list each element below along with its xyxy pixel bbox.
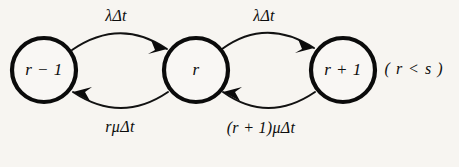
transition-birth-right: λΔt — [222, 7, 314, 53]
state-label-r-plus-1: r + 1 — [324, 60, 362, 79]
state-label-r: r — [192, 60, 199, 79]
edge-label-birth-right: λΔt — [252, 7, 275, 24]
diagram-canvas: λΔt rμΔt λΔt (r + 1)μΔt r − 1 r — [0, 0, 459, 167]
arc-death-right — [223, 92, 315, 108]
range-condition-annotation: ( r < s ) — [385, 60, 444, 78]
state-node-r-plus-1: r + 1 — [311, 38, 375, 102]
state-node-r: r — [164, 38, 228, 102]
state-node-r-minus-1: r − 1 — [12, 38, 76, 102]
edge-label-death-left: rμΔt — [105, 118, 135, 136]
transition-death-right: (r + 1)μΔt — [223, 87, 315, 137]
state-transition-diagram: λΔt rμΔt λΔt (r + 1)μΔt r − 1 r — [0, 0, 459, 167]
edge-label-birth-left: λΔt — [104, 7, 127, 24]
arc-death-left — [73, 92, 168, 108]
edge-label-death-right: (r + 1)μΔt — [227, 119, 296, 137]
state-label-r-minus-1: r − 1 — [25, 60, 63, 79]
transition-birth-left: λΔt — [72, 7, 167, 54]
transition-death-left: rμΔt — [73, 87, 168, 136]
